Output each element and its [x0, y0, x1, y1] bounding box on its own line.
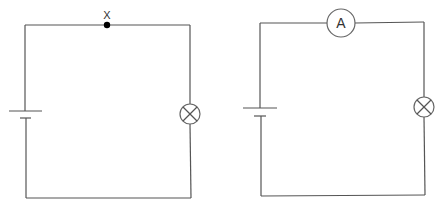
- ammeter-icon: A: [327, 9, 355, 37]
- right-bottom-wire: [261, 195, 425, 196]
- point-x-label: X: [103, 9, 111, 21]
- right-right-wire-lower: [424, 117, 425, 195]
- ammeter-label: A: [336, 15, 346, 31]
- battery-icon: [243, 108, 277, 116]
- left-right-wire-lower: [190, 124, 191, 198]
- point-x-dot: [104, 22, 110, 28]
- lamp-icon: [414, 97, 434, 117]
- battery-icon: [9, 111, 42, 118]
- right-top-wire-right: [355, 22, 424, 23]
- right-circuit: A: [243, 9, 434, 196]
- lamp-icon: [180, 104, 200, 124]
- circuit-svg: X A: [0, 0, 441, 206]
- left-circuit: X: [9, 9, 200, 198]
- circuit-diagrams: X A: [0, 0, 441, 206]
